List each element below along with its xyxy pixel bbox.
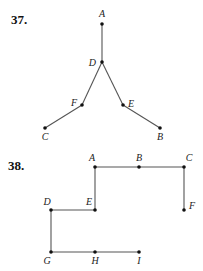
vertex-A [100, 22, 104, 26]
vertex-H [93, 250, 97, 254]
vertex-B [158, 126, 162, 130]
edge-D-E [102, 62, 123, 105]
vertex-D [49, 208, 53, 212]
vertex-label-G: G [43, 255, 50, 266]
edge-F-C [45, 105, 82, 128]
vertex-label-I: I [136, 255, 141, 266]
vertex-E [93, 208, 97, 212]
vertex-D [100, 60, 104, 64]
vertex-I [137, 250, 141, 254]
vertex-label-F: F [70, 97, 78, 108]
vertex-C [43, 126, 47, 130]
vertex-label-F: F [188, 200, 196, 211]
vertex-label-C: C [186, 152, 193, 163]
vertex-C [182, 165, 186, 169]
vertex-label-A: A [98, 8, 106, 19]
edge-D-F [82, 62, 102, 105]
vertex-label-D: D [42, 196, 51, 207]
vertex-B [137, 165, 141, 169]
vertex-label-D: D [88, 57, 97, 68]
vertex-label-H: H [90, 255, 99, 266]
graph-38: ABCDEFGHI [42, 152, 196, 266]
vertex-label-E: E [127, 98, 134, 109]
vertex-label-E: E [85, 196, 92, 207]
vertex-F [182, 208, 186, 212]
vertex-label-B: B [157, 131, 163, 142]
graph-37: ADFECB [42, 8, 163, 142]
vertex-F [80, 103, 84, 107]
vertex-label-C: C [42, 131, 49, 142]
vertex-label-B: B [136, 152, 142, 163]
vertex-label-A: A [88, 152, 96, 163]
vertex-A [93, 165, 97, 169]
graph-figures: ADFECB ABCDEFGHI [0, 0, 203, 271]
vertex-E [121, 103, 125, 107]
vertex-G [49, 250, 53, 254]
